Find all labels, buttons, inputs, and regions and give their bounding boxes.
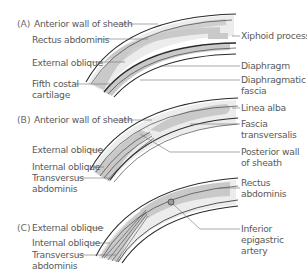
label-internal-oblique-b: Internal oblique bbox=[32, 161, 100, 172]
label-rectus-c: Rectus bbox=[241, 177, 270, 188]
panel-c-tag: (C) bbox=[17, 222, 31, 233]
label-abdominis-b: abdominis bbox=[32, 183, 77, 194]
label-transversus-b: Transversus bbox=[32, 172, 84, 183]
label-transversalis: transversalis bbox=[241, 129, 297, 140]
label-inferior: Inferior bbox=[241, 223, 272, 234]
label-diaphragm: Diaphragm bbox=[241, 60, 290, 71]
label-xiphoid-process: Xiphoid process bbox=[241, 30, 307, 41]
label-epigastric: epigastric bbox=[241, 234, 284, 245]
label-diaphragmatic: Diaphragmatic bbox=[241, 74, 306, 85]
label-posterior-wall: Posterior wall bbox=[241, 146, 299, 157]
label-external-oblique-a: External oblique bbox=[32, 57, 103, 68]
label-internal-oblique-c: Internal oblique bbox=[32, 237, 100, 248]
label-transversus-c: Transversus bbox=[32, 249, 84, 260]
panel-b-illustration bbox=[90, 98, 238, 182]
label-cartilage: cartilage bbox=[32, 89, 70, 100]
label-fascia-b: Fascia bbox=[241, 118, 268, 129]
label-rectus-abdominis-a: Rectus abdominis bbox=[32, 34, 109, 45]
label-anterior-wall-of-sheath-b: Anterior wall of sheath bbox=[34, 114, 133, 125]
panel-b-tag: (B) bbox=[17, 114, 30, 125]
label-fifth-costal: Fifth costal bbox=[32, 78, 79, 89]
panel-c-illustration bbox=[96, 178, 238, 263]
label-of-sheath: of sheath bbox=[241, 157, 282, 168]
label-linea-alba: Linea alba bbox=[241, 102, 286, 113]
label-external-oblique-b: External oblique bbox=[32, 144, 103, 155]
label-abdominis-c-right: abdominis bbox=[241, 188, 286, 199]
label-external-oblique-c: External oblique bbox=[32, 222, 103, 233]
label-artery: artery bbox=[241, 245, 267, 256]
label-abdominis-c: abdominis bbox=[32, 260, 77, 271]
label-fascia: fascia bbox=[241, 85, 266, 96]
label-anterior-wall-of-sheath-a: Anterior wall of sheath bbox=[34, 18, 133, 29]
panel-a-tag: (A) bbox=[17, 18, 30, 29]
